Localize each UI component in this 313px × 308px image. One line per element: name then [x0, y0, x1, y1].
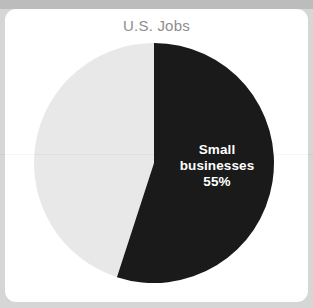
- pie-slice-label-line3: 55%: [159, 174, 275, 190]
- pie-slice-label: Small businesses 55%: [159, 142, 275, 190]
- chart-card: U.S. Jobs Small businesses 55%: [5, 9, 308, 302]
- pie-slice-label-line2: businesses: [159, 158, 275, 174]
- chart-canvas: U.S. Jobs Small businesses 55%: [0, 0, 313, 308]
- top-band: [0, 0, 313, 9]
- pie-slice-label-line1: Small: [159, 142, 275, 158]
- pie-chart: Small businesses 55%: [5, 9, 308, 302]
